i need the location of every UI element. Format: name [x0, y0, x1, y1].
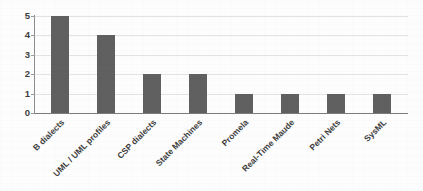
y-tick-label: 5: [4, 11, 30, 21]
x-axis-line: [35, 113, 408, 114]
bar[interactable]: [189, 74, 207, 113]
bar[interactable]: [281, 94, 299, 113]
plot-area: [35, 16, 408, 113]
bar[interactable]: [143, 74, 161, 113]
y-tick-mark: [31, 94, 35, 95]
gridline: [35, 74, 408, 75]
y-tick-label: 4: [4, 30, 30, 40]
y-tick-mark: [31, 74, 35, 75]
gridline: [35, 16, 408, 17]
y-tick-label: 0: [4, 108, 30, 118]
y-tick-label: 1: [4, 89, 30, 99]
y-tick-mark: [31, 113, 35, 114]
gridline: [35, 35, 408, 36]
gridline: [35, 94, 408, 95]
bar[interactable]: [97, 35, 115, 113]
bar[interactable]: [327, 94, 345, 113]
y-axis-line: [34, 15, 35, 114]
y-tick-mark: [31, 35, 35, 36]
bar[interactable]: [51, 16, 69, 113]
y-tick-label: 2: [4, 69, 30, 79]
bar-chart-figure: 012345 B dialectsUML / UML profilesCSP d…: [0, 0, 423, 191]
gridline: [35, 55, 408, 56]
y-tick-mark: [31, 16, 35, 17]
bar[interactable]: [235, 94, 253, 113]
y-tick-label: 3: [4, 50, 30, 60]
bar[interactable]: [373, 94, 391, 113]
y-tick-mark: [31, 55, 35, 56]
